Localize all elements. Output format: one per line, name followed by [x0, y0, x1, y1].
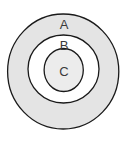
label-b: B [60, 38, 69, 53]
label-c: C [59, 64, 68, 79]
concentric-circles-diagram: A B C [0, 0, 132, 146]
label-a: A [60, 17, 69, 32]
